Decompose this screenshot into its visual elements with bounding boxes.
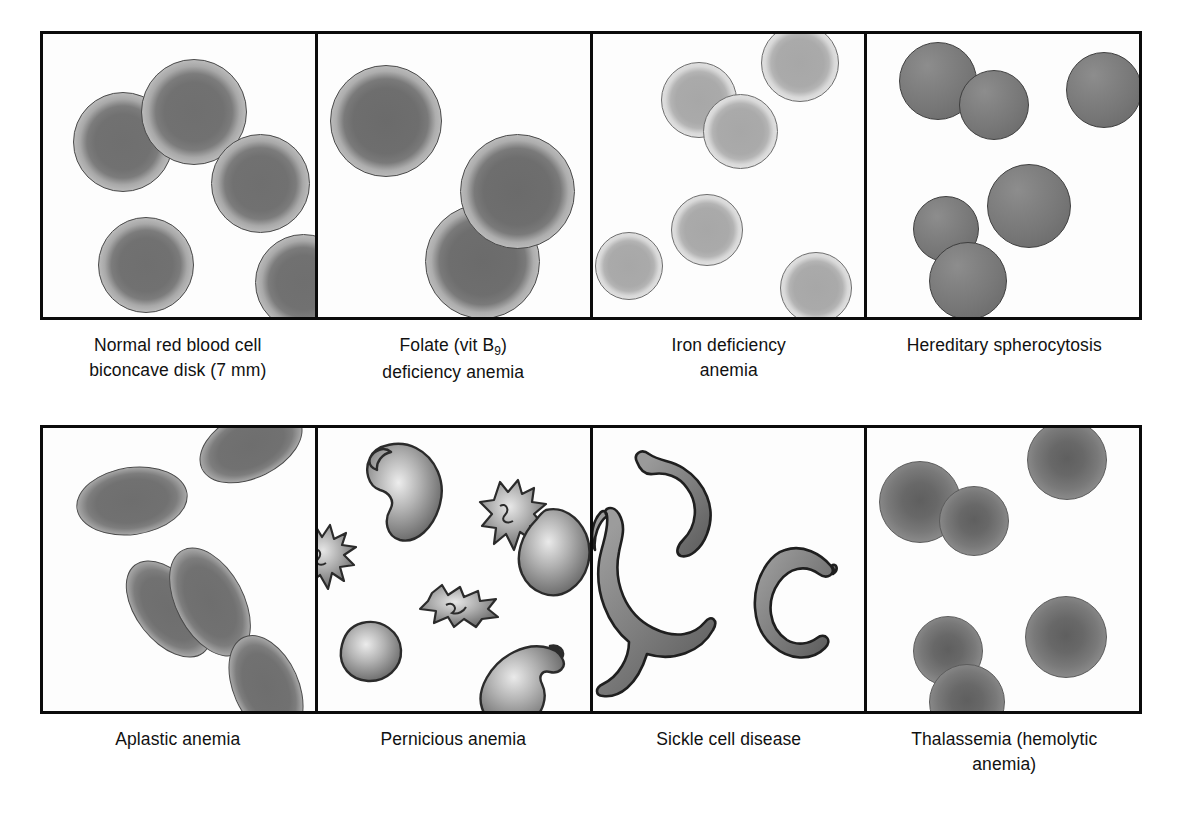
caption-strip-top: Normal red blood cell biconcave disk (7 … bbox=[40, 333, 1142, 385]
caption-line-2: biconcave disk (7 mm) bbox=[89, 360, 266, 380]
caption-line-1: Aplastic anemia bbox=[115, 729, 240, 749]
caption-pernicious-anemia: Pernicious anemia bbox=[316, 727, 592, 777]
blood-cell-irregular-fragment bbox=[418, 583, 500, 629]
panel-row-bottom: Aplastic anemia Pernicious anemia Sickle… bbox=[40, 425, 1142, 777]
panel-folate-deficiency-anemia bbox=[318, 34, 593, 317]
blood-cell-hypochromic bbox=[703, 94, 778, 169]
caption-line-1: Thalassemia (hemolytic bbox=[911, 729, 1097, 749]
caption-line-1-end: ) bbox=[501, 335, 507, 355]
blood-cell-macrocyte bbox=[330, 65, 442, 177]
blood-cell-teardrop bbox=[516, 506, 593, 598]
blood-cell-microcyte bbox=[939, 486, 1009, 556]
caption-line-2: anemia) bbox=[972, 754, 1036, 774]
blood-cell-spiculated-burr bbox=[318, 523, 358, 595]
caption-line-1: Iron deficiency bbox=[672, 335, 786, 355]
caption-line-1: Pernicious anemia bbox=[380, 729, 526, 749]
blood-cell-spherocyte bbox=[987, 164, 1071, 248]
blood-cell-microcyte bbox=[1025, 596, 1107, 678]
panel-normal-red-blood-cell bbox=[43, 34, 318, 317]
blood-cell-spherocyte bbox=[929, 242, 1007, 317]
caption-sickle-cell-disease: Sickle cell disease bbox=[591, 727, 867, 777]
blood-cell-sickle bbox=[593, 506, 731, 702]
caption-line-2: deficiency anemia bbox=[382, 362, 524, 382]
caption-folate-deficiency-anemia: Folate (vit B9) deficiency anemia bbox=[316, 333, 592, 385]
blood-cell-round-poikilocyte bbox=[338, 620, 404, 684]
panel-row-top: Normal red blood cell biconcave disk (7 … bbox=[40, 31, 1142, 385]
blood-cell-hypochromic bbox=[780, 252, 852, 317]
caption-line-1: Normal red blood cell bbox=[94, 335, 261, 355]
caption-hereditary-spherocytosis: Hereditary spherocytosis bbox=[867, 333, 1143, 385]
anemia-morphology-figure: Normal red blood cell biconcave disk (7 … bbox=[0, 0, 1178, 821]
blood-cell-biconcave-disk bbox=[255, 234, 318, 317]
panel-hereditary-spherocytosis bbox=[867, 34, 1139, 317]
blood-cell-macrocyte bbox=[460, 134, 575, 249]
caption-line-1: Hereditary spherocytosis bbox=[907, 335, 1102, 355]
panel-strip-bottom bbox=[40, 425, 1142, 714]
blood-cell-spherocyte bbox=[1066, 52, 1139, 128]
blood-cell-hypochromic bbox=[671, 194, 743, 266]
caption-line-1: Sickle cell disease bbox=[656, 729, 801, 749]
caption-subscript: 9 bbox=[494, 344, 501, 358]
panel-sickle-cell-disease bbox=[593, 428, 868, 711]
blood-cell-spherocyte bbox=[959, 70, 1029, 140]
blood-cell-ovalocyte bbox=[187, 428, 315, 499]
blood-cell-sickle bbox=[745, 546, 841, 662]
blood-cell-teardrop bbox=[358, 440, 463, 550]
panel-aplastic-anemia bbox=[43, 428, 318, 711]
caption-aplastic-anemia: Aplastic anemia bbox=[40, 727, 316, 777]
caption-normal-red-blood-cell: Normal red blood cell biconcave disk (7 … bbox=[40, 333, 316, 385]
blood-cell-biconcave-disk bbox=[98, 217, 194, 313]
panel-strip-top bbox=[40, 31, 1142, 320]
blood-cell-microcyte bbox=[1027, 428, 1107, 500]
panel-iron-deficiency-anemia bbox=[593, 34, 868, 317]
caption-iron-deficiency-anemia: Iron deficiency anemia bbox=[591, 333, 867, 385]
blood-cell-hypochromic bbox=[761, 34, 839, 102]
blood-cell-hypochromic bbox=[595, 232, 663, 300]
panel-pernicious-anemia bbox=[318, 428, 593, 711]
caption-strip-bottom: Aplastic anemia Pernicious anemia Sickle… bbox=[40, 727, 1142, 777]
blood-cell-ovalocyte bbox=[72, 460, 192, 543]
blood-cell-teardrop bbox=[478, 640, 573, 711]
caption-thalassemia-hemolytic-anemia: Thalassemia (hemolytic anemia) bbox=[867, 727, 1143, 777]
blood-cell-biconcave-disk bbox=[211, 134, 310, 233]
panel-thalassemia-hemolytic-anemia bbox=[867, 428, 1139, 711]
caption-line-1: Folate (vit B bbox=[400, 335, 495, 355]
caption-line-2: anemia bbox=[700, 360, 758, 380]
